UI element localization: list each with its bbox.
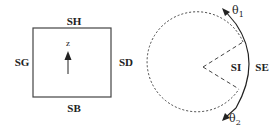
- label-outer-se: SE: [255, 61, 268, 73]
- domain-square: [33, 28, 111, 97]
- label-right-sd: SD: [119, 56, 133, 68]
- label-left-sg: SG: [15, 56, 30, 68]
- dotted-circle: [147, 12, 243, 112]
- circle-panel: SI SE θ1 θ2: [147, 4, 269, 127]
- label-bottom-sb: SB: [67, 102, 81, 114]
- square-panel: SH SB SG SD z: [15, 15, 133, 114]
- label-z-axis: z: [66, 38, 70, 48]
- diagram-canvas: SH SB SG SD z SI SE θ1: [0, 0, 280, 130]
- theta1-subscript: 1: [239, 10, 244, 19]
- label-theta1: θ1: [232, 4, 244, 19]
- label-top-sh: SH: [67, 15, 82, 27]
- label-inner-si: SI: [231, 61, 241, 73]
- z-arrow-icon: [65, 51, 72, 74]
- theta2-subscript: 2: [236, 118, 241, 127]
- label-theta2: θ2: [229, 112, 241, 127]
